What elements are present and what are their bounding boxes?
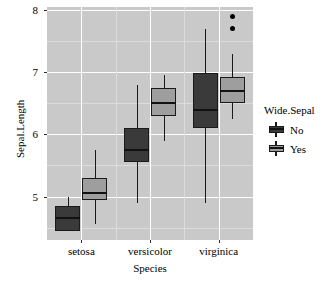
y-tick-label: 7 <box>18 67 38 78</box>
whisker-upper <box>232 54 233 77</box>
median-line <box>220 90 245 92</box>
chart-root: Sepal.Length Species 5678 setosaversicol… <box>0 0 330 284</box>
box-virginica-No <box>193 73 218 128</box>
whisker-lower <box>137 162 138 202</box>
y-tick-label: 5 <box>18 192 38 203</box>
whisker-lower <box>232 103 233 119</box>
legend-title: Wide.Sepal <box>264 104 315 116</box>
whisker-upper <box>95 150 96 178</box>
y-tick-mark <box>44 134 47 135</box>
x-axis-title: Species <box>27 262 273 274</box>
legend-item-yes[interactable]: Yes <box>268 141 306 156</box>
y-axis-title: Sepal.Length <box>14 99 26 157</box>
vgridline-major <box>150 7 151 240</box>
x-tick-mark <box>81 240 82 243</box>
box-versicolor-No <box>124 128 149 162</box>
y-tick-label: 6 <box>18 129 38 140</box>
vgridline-minor <box>184 7 185 240</box>
median-line <box>82 192 107 194</box>
whisker-lower <box>164 116 165 141</box>
whisker-upper <box>164 75 165 87</box>
whisker-lower <box>205 128 206 203</box>
median-line <box>55 217 80 219</box>
x-tick-mark <box>150 240 151 243</box>
x-tick-mark <box>219 240 220 243</box>
y-tick-mark <box>44 10 47 11</box>
vgridline-major <box>219 7 220 240</box>
vgridline-major <box>81 7 82 240</box>
legend-label: No <box>290 124 303 136</box>
y-tick-label: 8 <box>18 5 38 16</box>
legend-swatch-icon <box>268 122 285 137</box>
y-tick-mark <box>44 197 47 198</box>
box-setosa-Yes <box>82 178 107 200</box>
whisker-upper <box>137 85 138 128</box>
legend-label: Yes <box>290 143 306 155</box>
y-tick-mark <box>44 72 47 73</box>
whisker-upper <box>68 197 69 206</box>
outlier-point <box>230 14 235 19</box>
median-line <box>151 102 176 104</box>
legend-swatch-icon <box>268 141 285 156</box>
median-line <box>124 149 149 151</box>
x-tick-label-virginica: virginica <box>174 246 264 257</box>
median-line <box>193 109 218 111</box>
whisker-upper <box>205 29 206 74</box>
whisker-lower <box>95 200 96 225</box>
vgridline-minor <box>116 7 117 240</box>
legend-item-no[interactable]: No <box>268 122 303 137</box>
